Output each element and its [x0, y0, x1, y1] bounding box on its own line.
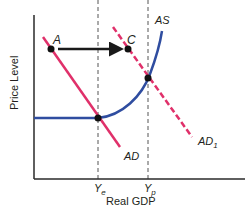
point-c-label: C [127, 33, 136, 47]
ad1-label: AD1 [197, 135, 218, 150]
ye-tick-label: Ye [94, 182, 106, 197]
x-axis-label: Real GDP [106, 195, 156, 207]
equilibrium-ye-dot [95, 115, 102, 122]
ad-as-diagram: A C AS AD AD1 Ye Yp Real GDP Price Level [0, 0, 252, 209]
y-axis-label: Price Level [8, 56, 20, 110]
equilibrium-yp-dot [145, 75, 152, 82]
as-label: AS [154, 14, 170, 26]
ad-curve [43, 37, 120, 147]
ad-label: AD [123, 150, 139, 162]
point-a-label: A [52, 33, 61, 47]
ad1-curve [113, 27, 192, 137]
